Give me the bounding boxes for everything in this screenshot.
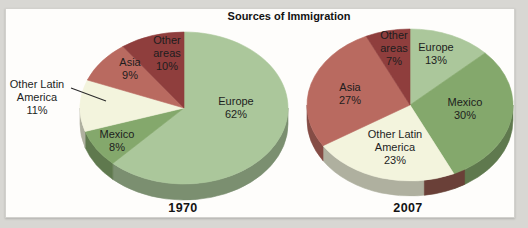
pie-charts-svg	[0, 0, 528, 228]
pie-chart-figure: Sources of Immigration 1970 2007 Europe6…	[0, 0, 528, 228]
